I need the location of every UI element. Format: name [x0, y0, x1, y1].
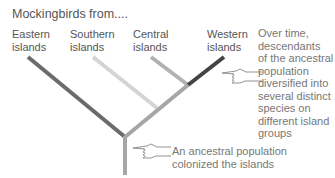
pointing-hand-icon: [222, 69, 262, 83]
note-line: of the ancestral: [258, 52, 333, 65]
note-line: different island: [258, 115, 333, 128]
pointing-hand-icon: [133, 144, 171, 158]
note-diversified: Over time, descendants of the ancestral …: [258, 27, 333, 140]
note-line: An ancestral population: [172, 145, 287, 158]
branch-internal: [125, 85, 188, 137]
note-line: species on: [258, 102, 333, 115]
branch-western: [188, 57, 224, 85]
note-line: diversified into: [258, 77, 333, 90]
note-line: colonized the islands: [172, 158, 287, 171]
note-line: Over time,: [258, 27, 333, 40]
note-line: population: [258, 65, 333, 78]
note-line: groups: [258, 127, 333, 140]
branch-central: [151, 57, 188, 85]
note-ancestral: An ancestral population colonized the is…: [172, 145, 287, 170]
branch-southern: [93, 57, 157, 108]
note-line: several distinct: [258, 90, 333, 103]
note-line: descendants: [258, 40, 333, 53]
